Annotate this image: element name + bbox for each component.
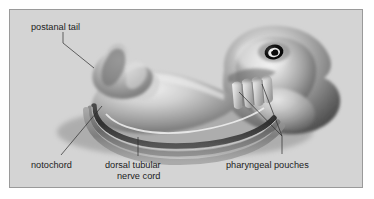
leader-postanal-tail [63, 32, 94, 68]
embryo-body [57, 26, 340, 162]
eye-glint [270, 49, 273, 51]
label-postanal-tail: postanal tail [31, 22, 80, 32]
embryo-illustration: postanal tail notochord dorsal tubular n… [10, 10, 362, 187]
label-pharyngeal-pouches: pharyngeal pouches [226, 160, 309, 170]
figure-root: postanal tail notochord dorsal tubular n… [0, 0, 374, 199]
diagram-panel: postanal tail notochord dorsal tubular n… [9, 9, 363, 188]
label-nerve-cord-line2: nerve cord [117, 171, 160, 181]
label-nerve-cord-line1: dorsal tubular [105, 160, 161, 170]
label-notochord: notochord [31, 160, 72, 170]
